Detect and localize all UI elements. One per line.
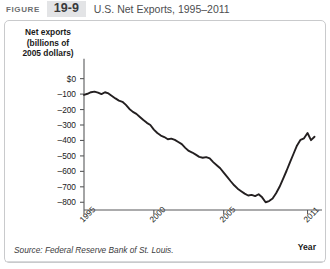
plot-area: Net exports (billions of 2005 dollars) $…: [5, 21, 327, 234]
figure-card: Net exports (billions of 2005 dollars) $…: [4, 20, 326, 263]
figure-number-badge: 19-9: [47, 1, 86, 17]
card-bottom-divider: [5, 261, 325, 262]
figure-title: U.S. Net Exports, 1995–2011: [86, 3, 230, 15]
net-exports-data-line: [84, 92, 315, 203]
figure-container: FIGURE 19-9 U.S. Net Exports, 1995–2011 …: [0, 0, 330, 269]
chart-axes: [80, 59, 322, 214]
net-exports-line-chart: [5, 21, 327, 234]
figure-header: FIGURE 19-9 U.S. Net Exports, 1995–2011: [0, 0, 330, 18]
source-note: Source: Federal Reserve Bank of St. Loui…: [14, 245, 174, 255]
x-axis-title: Year: [298, 242, 316, 252]
figure-label: FIGURE: [6, 5, 47, 14]
